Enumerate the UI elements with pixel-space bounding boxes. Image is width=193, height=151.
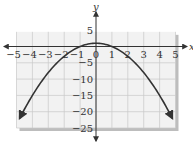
parabola-graph: xy−5−4−3−2−10123455−5−10−15−20−25 [0,0,193,151]
x-tick-label: 2 [125,49,131,60]
x-axis-label: x [189,41,193,52]
y-axis-label: y [92,1,99,12]
y-tick-label: −20 [72,106,93,117]
x-tick-label: 0 [93,49,99,60]
x-tick-label: 3 [141,49,147,60]
x-tick-label: −5 [6,49,21,60]
y-tick-label: −10 [72,74,93,85]
x-tick-label: 1 [109,49,115,60]
x-tick-label: −4 [22,49,37,60]
x-tick-label: −3 [38,49,53,60]
y-tick-label: −25 [72,123,93,134]
y-tick-label: −15 [72,90,93,101]
y-tick-label: −5 [78,57,93,68]
y-tick-label: 5 [87,25,93,36]
x-tick-label: 4 [156,49,162,60]
x-tick-label: −2 [54,49,69,60]
x-tick-label: 5 [172,49,178,60]
